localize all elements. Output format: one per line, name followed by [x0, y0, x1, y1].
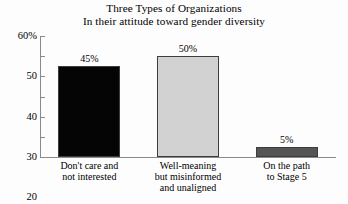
y-axis-tick-label: 60%: [18, 31, 37, 42]
bar: 50%: [157, 56, 219, 157]
y-axis-tick-label: 40: [27, 111, 38, 122]
category-label: Don't care andnot interested: [40, 160, 139, 182]
y-axis-tick: 40: [41, 76, 45, 77]
bar: 45%: [58, 66, 120, 157]
bar-value-label: 5%: [280, 135, 293, 145]
chart-title: Three Types of Organizations: [0, 2, 348, 15]
chart-subtitle: In their attitude toward gender diversit…: [0, 15, 348, 28]
category-label-line: On the path: [237, 160, 336, 171]
y-axis-tick-label: 50: [27, 71, 38, 82]
y-axis-tick: 10: [41, 137, 45, 138]
bar-chart: Three Types of Organizations In their at…: [0, 0, 348, 204]
x-axis-line: [40, 157, 336, 158]
y-axis-tick-label: 30: [27, 152, 38, 163]
y-axis-tick-label: 20: [27, 192, 38, 203]
y-axis-tick: 60%: [41, 36, 45, 37]
category-label-line: and unaligned: [139, 182, 238, 193]
plot-area: 60%50403020100 45%50%5%: [40, 36, 336, 158]
bar-value-label: 50%: [179, 44, 197, 54]
chart-title-block: Three Types of Organizations In their at…: [0, 2, 348, 27]
y-axis-tick: 0: [41, 157, 45, 158]
y-axis-tick: 20: [41, 117, 45, 118]
bar: 5%: [256, 147, 318, 157]
category-label: Well-meaningbut misinformedand unaligned: [139, 160, 238, 193]
category-label-line: not interested: [40, 171, 139, 182]
category-label-line: Well-meaning: [139, 160, 238, 171]
y-axis-tick: 30: [41, 97, 45, 98]
category-label-line: to Stage 5: [237, 171, 336, 182]
category-label: On the pathto Stage 5: [237, 160, 336, 182]
bar-value-label: 45%: [80, 54, 98, 64]
category-label-line: Don't care and: [40, 160, 139, 171]
category-label-line: but misinformed: [139, 171, 238, 182]
y-axis-tick: 50: [41, 56, 45, 57]
